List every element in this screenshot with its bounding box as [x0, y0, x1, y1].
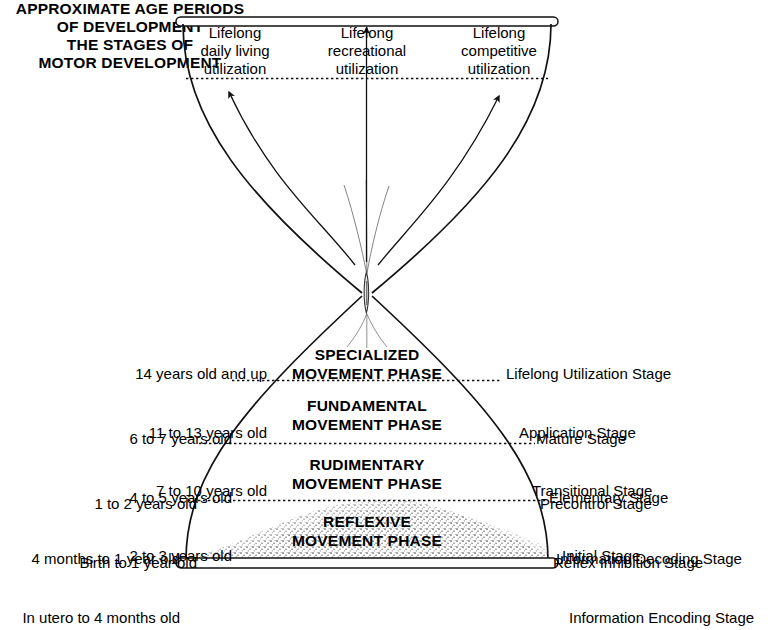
utilization-label-daily-living: Lifelongdaily livingutilization [170, 24, 300, 78]
utilization-label-competitive: Lifelongcompetitiveutilization [434, 24, 564, 78]
arrow-daily-living [229, 92, 355, 265]
arrow-competitive [378, 96, 499, 265]
hourglass-neck [364, 272, 369, 313]
age-line: In utero to 4 months old [0, 608, 180, 628]
stage-line: Mature Stage [536, 429, 776, 449]
age-line: 4 months to 1 year old [0, 549, 180, 569]
age-line: 6 to 7 years old [0, 429, 232, 449]
utilization-label-recreational: Lifelongrecreationalutilization [302, 24, 432, 78]
stage-line: Information Decoding Stage [556, 549, 778, 569]
age-line: 14 years old and up [0, 364, 267, 384]
hourglass-base [176, 558, 558, 568]
stage-group-reflexive: Information Decoding Stage Information E… [556, 510, 778, 630]
age-group-reflexive: 4 months to 1 year old In utero to 4 mon… [0, 510, 180, 630]
sand-stream-lower [347, 314, 387, 348]
stage-line: Information Encoding Stage [569, 608, 778, 628]
stage-line: Lifelong Utilization Stage [506, 364, 776, 384]
